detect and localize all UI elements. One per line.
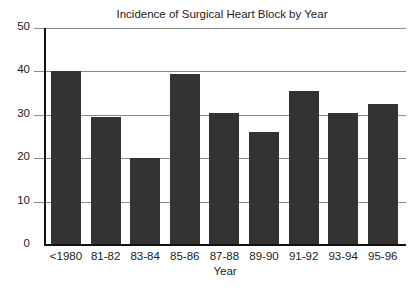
bar xyxy=(328,113,358,245)
bar xyxy=(249,132,279,245)
x-tick-label: 89-90 xyxy=(244,250,284,262)
y-tick-label: 40 xyxy=(0,63,30,75)
bar xyxy=(289,91,319,245)
bar xyxy=(368,104,398,245)
gridline xyxy=(34,71,406,72)
y-tick-label: 10 xyxy=(0,194,30,206)
x-tick-label: 85-86 xyxy=(165,250,205,262)
bar xyxy=(209,113,239,245)
y-tick-label: 30 xyxy=(0,107,30,119)
plot-area xyxy=(44,28,406,245)
x-axis-label: Year xyxy=(195,265,255,277)
x-tick-label: 87-88 xyxy=(204,250,244,262)
bar xyxy=(170,74,200,245)
bar-chart: Incidence of Surgical Heart Block by Yea… xyxy=(0,0,419,290)
y-tick-label: 20 xyxy=(0,150,30,162)
x-axis-line xyxy=(44,244,406,246)
x-tick-label: 93-94 xyxy=(323,250,363,262)
y-tick-label: 50 xyxy=(0,20,30,32)
bar xyxy=(91,117,121,245)
x-tick-label: 83-84 xyxy=(125,250,165,262)
x-tick-label: 91-92 xyxy=(284,250,324,262)
x-tick-label: 95-96 xyxy=(363,250,403,262)
bar xyxy=(51,71,81,245)
bar xyxy=(130,158,160,245)
x-tick-label: <1980 xyxy=(46,250,86,262)
y-axis-line xyxy=(44,28,46,246)
y-tick-label: 0 xyxy=(0,237,30,249)
gridline xyxy=(34,28,406,29)
x-tick-label: 81-82 xyxy=(86,250,126,262)
chart-title: Incidence of Surgical Heart Block by Yea… xyxy=(0,8,419,20)
